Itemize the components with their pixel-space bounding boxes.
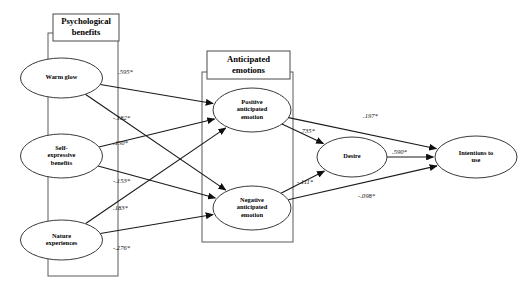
node-negative-anticipated-emotion: Negativeanticipatedemotion <box>213 186 291 230</box>
path-warm-glow-to-positive <box>100 85 213 104</box>
node-label-warm-glow: Warm glow <box>46 73 78 80</box>
coefficient-negative-to-intentions: -.098* <box>358 192 376 199</box>
coefficient-self-expressive-to-positive: .150* <box>113 139 129 146</box>
node-label-self-expressive-benefits: Self- <box>55 144 67 151</box>
node-label-positive-anticipated-emotion: emotion <box>241 113 263 120</box>
node-label-positive-anticipated-emotion: Positive <box>241 98 262 105</box>
node-positive-anticipated-emotion: Positiveanticipatedemotion <box>213 88 291 132</box>
coefficient-self-expressive-to-negative: -.153* <box>113 177 131 184</box>
sem-canvas: Warm glowSelf-expressivebenefitsNatureex… <box>0 0 531 288</box>
path-nature-to-negative <box>100 215 213 234</box>
node-desire: Desire <box>317 137 387 177</box>
node-self-expressive-benefits: Self-expressivebenefits <box>21 134 103 178</box>
group-header-label-anticipated-emotions: Anticipated <box>227 54 270 64</box>
coefficient-negative-to-desire: -.111* <box>297 178 314 185</box>
node-label-negative-anticipated-emotion: anticipated <box>237 203 268 210</box>
node-label-desire: Desire <box>343 152 360 159</box>
coefficient-warm-glow-to-positive: .595* <box>118 68 134 75</box>
group-header-psychological-benefits: Psychologicalbenefits <box>53 14 119 41</box>
construct-nodes: Warm glowSelf-expressivebenefitsNatureex… <box>21 58 518 260</box>
coefficient-positive-to-desire: .735* <box>300 127 316 134</box>
group-header-anticipated-emotions: Anticipatedemotions <box>207 51 290 79</box>
node-label-self-expressive-benefits: benefits <box>51 159 73 166</box>
node-label-nature-experiences: experiences <box>46 239 78 246</box>
coefficient-positive-to-intentions: .197* <box>363 112 379 119</box>
coefficient-nature-to-negative: -.276* <box>113 244 131 251</box>
group-header-label-anticipated-emotions: emotions <box>232 65 266 75</box>
node-label-intentions-to-use: use <box>472 156 481 163</box>
sem-diagram: Warm glowSelf-expressivebenefitsNatureex… <box>0 0 531 288</box>
node-label-intentions-to-use: Intentions to <box>459 149 494 156</box>
node-warm-glow: Warm glow <box>21 58 103 98</box>
coefficient-warm-glow-to-negative: -.182* <box>113 114 131 121</box>
node-label-negative-anticipated-emotion: Negative <box>240 196 264 203</box>
group-header-label-psychological-benefits: Psychological <box>61 16 111 26</box>
group-header-label-psychological-benefits: benefits <box>72 27 101 37</box>
coefficient-nature-to-positive: .183* <box>113 204 129 211</box>
node-nature-experiences: Natureexperiences <box>21 220 103 260</box>
node-intentions-to-use: Intentions touse <box>435 136 517 178</box>
node-label-nature-experiences: Nature <box>52 232 71 239</box>
coefficient-desire-to-intentions: .590* <box>392 148 408 155</box>
node-label-negative-anticipated-emotion: emotion <box>241 211 263 218</box>
node-label-positive-anticipated-emotion: anticipated <box>237 105 268 112</box>
node-label-self-expressive-benefits: expressive <box>48 151 76 158</box>
